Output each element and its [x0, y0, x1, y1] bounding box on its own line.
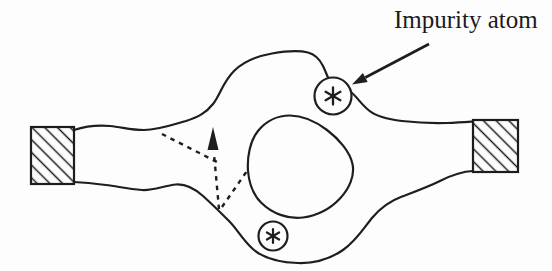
inner-hole-loop [248, 116, 353, 218]
label-arrowhead-icon [352, 73, 368, 85]
impurity-atom-top-marker [315, 78, 352, 115]
label-pointer-arrow [352, 44, 429, 85]
impurity-atom-bottom-marker [259, 222, 288, 251]
trajectory-arrowhead-icon [208, 127, 219, 150]
left-contact-electrode [31, 127, 74, 184]
trajectory-outgoing-segment [222, 171, 247, 207]
right-contact-electrode [473, 120, 518, 172]
mesoscopic-conductor-diagram [0, 0, 552, 271]
figure-canvas: Impurity atom [0, 0, 552, 271]
impurity-atom-label: Impurity atom [394, 7, 538, 32]
